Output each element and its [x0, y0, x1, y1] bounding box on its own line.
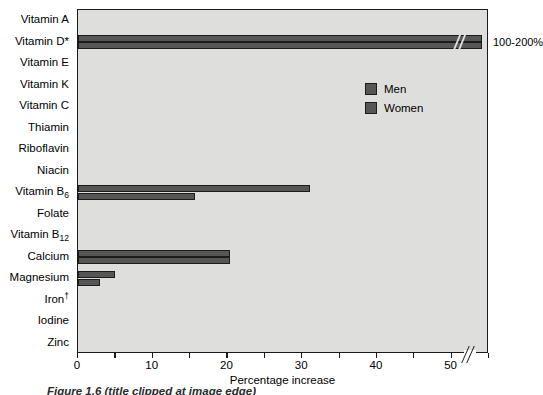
over-scale-annotation: 100-200% [493, 32, 543, 54]
y-axis-label-iodine: Iodine [38, 310, 69, 332]
y-axis-label-vitamin-e: Vitamin E [20, 52, 69, 74]
bar-row [78, 247, 487, 269]
legend-swatch-women [365, 102, 377, 114]
y-axis-label-vitamin-c: Vitamin C [19, 95, 69, 117]
x-axis-tick-label: 50 [444, 359, 457, 371]
bar-row [78, 161, 487, 183]
x-axis-tick [339, 353, 340, 358]
bar-row [78, 268, 487, 290]
bar-row [78, 75, 487, 97]
y-axis-label-iron: Iron† [44, 289, 69, 311]
bar-women [78, 257, 230, 264]
x-axis-tick [301, 353, 302, 358]
x-axis-tick [376, 353, 377, 358]
bar-row [78, 96, 487, 118]
bar-row [78, 139, 487, 161]
bar-row: 100-200% [78, 32, 487, 54]
y-axis-label-vitamin-k: Vitamin K [20, 74, 69, 96]
x-axis-tick [264, 353, 265, 358]
bar-women [78, 279, 100, 286]
bar-row [78, 290, 487, 312]
x-axis-tick-label: 40 [370, 359, 383, 371]
x-axis-tick-label: 10 [145, 359, 158, 371]
y-axis-label-vitamin-b: Vitamin B12 [11, 224, 69, 246]
bar-men [78, 250, 230, 257]
bar-women [78, 193, 195, 200]
legend-item-men: Men [365, 79, 423, 98]
y-axis-label-vitamin-d: Vitamin D* [15, 31, 69, 53]
x-axis-tick [189, 353, 190, 358]
x-axis-tick-label: 30 [295, 359, 308, 371]
bar-row [78, 53, 487, 75]
x-axis-tick [77, 353, 78, 358]
bar-women [78, 42, 482, 49]
legend: Men Women [365, 79, 423, 117]
y-axis-label-niacin: Niacin [37, 160, 69, 182]
bar-row [78, 204, 487, 226]
figure-caption: Figure 1.6 (title clipped at image edge) [47, 385, 256, 395]
y-axis-label-riboflavin: Riboflavin [19, 138, 70, 160]
bar-row [78, 333, 487, 355]
bar-row [78, 225, 487, 247]
bar-men [78, 271, 115, 278]
x-axis-tick [488, 353, 489, 358]
bar-row [78, 118, 487, 140]
legend-label-men: Men [384, 83, 406, 95]
x-axis-break-marker [462, 346, 477, 363]
x-axis-tick [114, 353, 115, 358]
y-axis-labels: Vitamin AVitamin D*Vitamin EVitamin KVit… [0, 9, 73, 353]
plot-area: 100-200% [77, 9, 488, 353]
x-axis-tick-label: 20 [220, 359, 233, 371]
x-axis-tick [152, 353, 153, 358]
legend-label-women: Women [384, 102, 423, 114]
y-axis-label-magnesium: Magnesium [10, 267, 69, 289]
bar-men [78, 185, 310, 192]
bar-row [78, 10, 487, 32]
x-axis-tick [451, 353, 452, 358]
y-axis-label-calcium: Calcium [27, 246, 69, 268]
bar-row [78, 182, 487, 204]
x-axis-tick [413, 353, 414, 358]
x-axis-tick [226, 353, 227, 358]
y-axis-label-folate: Folate [37, 203, 69, 225]
y-axis-label-vitamin-a: Vitamin A [21, 9, 69, 31]
y-axis-label-vitamin-b: Vitamin B6 [15, 181, 69, 203]
bar-men [78, 35, 482, 42]
y-axis-label-zinc: Zinc [47, 332, 69, 354]
legend-item-women: Women [365, 98, 423, 117]
y-axis-label-thiamin: Thiamin [28, 117, 69, 139]
x-axis-tick-label: 0 [74, 359, 80, 371]
bar-row [78, 311, 487, 333]
legend-swatch-men [365, 83, 377, 95]
